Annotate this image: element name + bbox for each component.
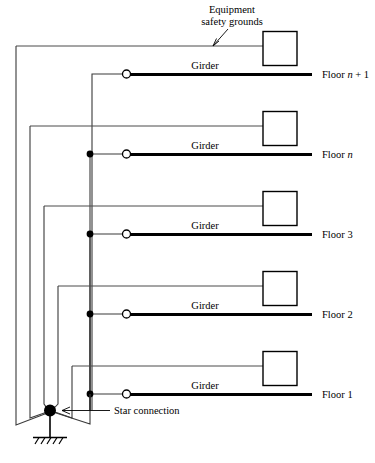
floor-label-suffix: 2: [347, 309, 352, 320]
star-connection-annotation: Star connection: [62, 405, 180, 416]
equipment-box-floor-n-plus-1: [263, 32, 297, 66]
girder-riser-floor-2: [90, 314, 125, 410]
ground-hatch-icon: [35, 438, 63, 445]
equipment-safety-grounds-line2: safety grounds: [201, 16, 263, 27]
girder-terminal-ring-floor-2: [123, 310, 131, 318]
girder-terminal-ring-floor-1: [123, 390, 131, 398]
floor-row-1: Girder Floor 1: [72, 352, 353, 411]
girder-label-floor-n: Girder: [191, 140, 219, 151]
floor-row-n: Girder Floor n: [30, 112, 353, 411]
bus-tap-node-floor-n: [87, 151, 94, 158]
equipment-box-floor-1: [263, 352, 297, 386]
equipment-safety-grounds-leader-line: [213, 29, 228, 46]
equipment-safety-grounds-line1: Equipment: [209, 4, 255, 15]
girder-label-floor-n-plus-1: Girder: [191, 60, 219, 71]
safety-ground-riser-3: [44, 206, 50, 410]
equipment-box-floor-2: [263, 272, 297, 306]
floor-label-prefix: Floor: [322, 389, 347, 400]
star-connection-label: Star connection: [114, 405, 180, 416]
floor-label-italic: n: [347, 149, 352, 160]
floor-label-3: Floor 3: [322, 229, 353, 240]
girder-terminal-ring-floor-3: [123, 230, 131, 238]
grounding-diagram: Girder Floor n + 1 Girder Floor n Girder…: [0, 0, 375, 463]
equipment-box-floor-3: [263, 192, 297, 226]
girder-terminal-ring-floor-n-plus-1: [123, 70, 131, 78]
floor-label-prefix: Floor: [322, 149, 347, 160]
safety-ground-riser-n-plus-1: [16, 46, 50, 425]
floor-label-suffix: + 1: [353, 69, 369, 80]
floor-label-2: Floor 2: [322, 309, 353, 320]
star-connection-group: [33, 405, 67, 445]
girder-label-floor-3: Girder: [191, 220, 219, 231]
floor-label-suffix: 3: [347, 229, 352, 240]
floor-label-prefix: Floor: [322, 309, 347, 320]
floor-label-prefix: Floor: [322, 229, 347, 240]
girder-riser-floor-n: [90, 154, 125, 410]
floor-label-1: Floor 1: [322, 389, 353, 400]
girder-riser-floor-n-plus-1: [92, 74, 125, 410]
equipment-box-floor-n: [263, 112, 297, 146]
girder-label-floor-2: Girder: [191, 300, 219, 311]
bus-tap-node-floor-3: [87, 231, 94, 238]
girder-label-floor-1: Girder: [191, 380, 219, 391]
safety-ground-riser-bundle: [16, 46, 90, 425]
floor-label-suffix: 1: [347, 389, 352, 400]
equipment-safety-grounds-annotation: Equipment safety grounds: [201, 4, 263, 46]
girder-terminal-ring-floor-n: [123, 150, 131, 158]
bus-tap-node-floor-2: [87, 311, 94, 318]
safety-ground-riser-2: [51, 286, 58, 410]
safety-ground-riser-n: [30, 126, 50, 418]
floor-label-n: Floor n: [322, 149, 353, 160]
floor-label-n-plus-1: Floor n + 1: [322, 69, 369, 80]
floor-label-prefix: Floor: [322, 69, 347, 80]
girder-riser-floor-3: [90, 234, 125, 410]
